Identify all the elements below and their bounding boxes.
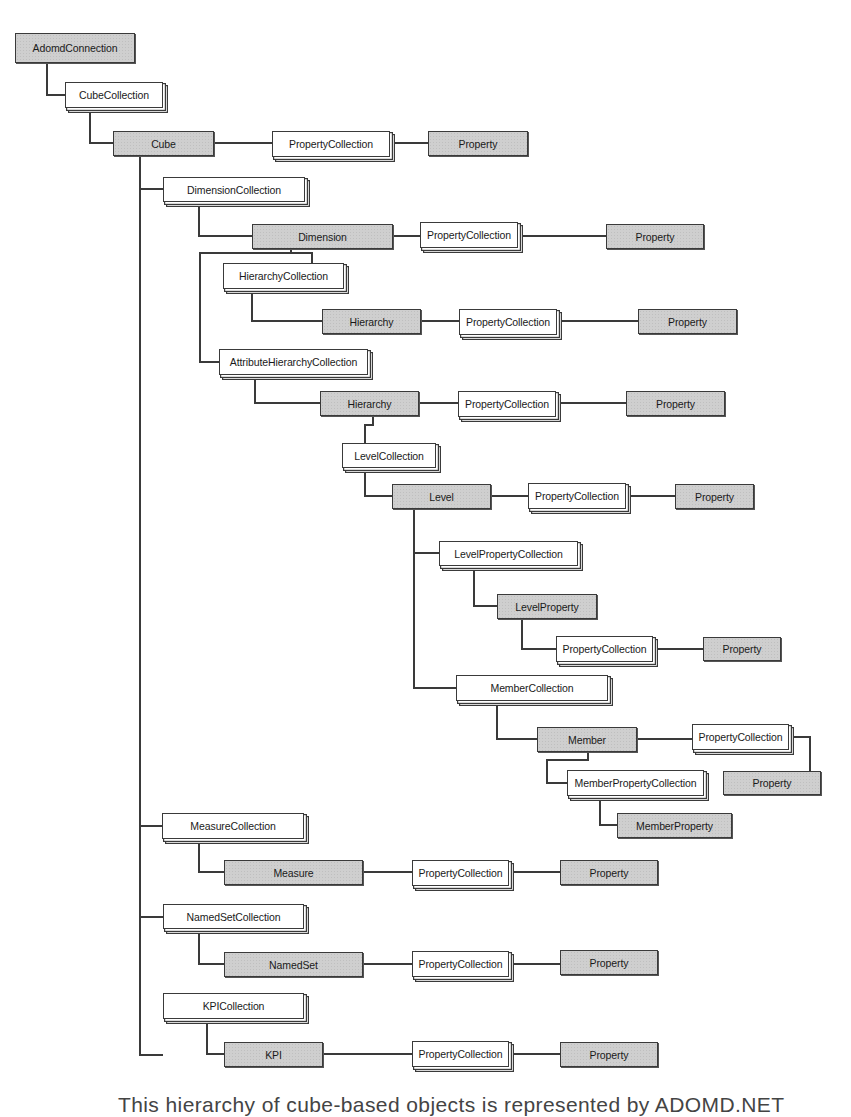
connector-hierarchy_collection-to-hierarchy_1 [252,289,322,321]
node-kpi-property-collection: PropertyCollection [412,1041,509,1067]
node-label: Property [590,867,629,879]
node-level-property-obj-property-collection: PropertyCollection [556,636,653,662]
connector-member_collection-to-member [497,701,537,739]
node-label: PropertyCollection [535,490,619,502]
node-label: Property [753,777,792,789]
node-label: PropertyCollection [419,958,503,970]
node-level: Level [392,484,491,509]
connector-level_property_obj-to-level_property_obj_property_collection [522,619,556,649]
figure-caption: This hierarchy of cube-based objects is … [118,1093,784,1117]
node-label: Cube [151,138,176,150]
node-level-property-obj-property: Property [703,637,781,661]
node-named-set-property-collection: PropertyCollection [412,951,509,977]
node-label: Measure [273,867,313,879]
node-adomd-connection: AdomdConnection [15,33,135,63]
node-label: Member [568,734,606,746]
connector-attribute_hierarchy_collection-to-hierarchy_2 [255,375,320,403]
node-level-property-collection: PropertyCollection [528,483,626,509]
node-label: MemberCollection [490,682,573,694]
node-dimension-collection: DimensionCollection [163,177,305,202]
node-measure-collection: MeasureCollection [162,813,304,839]
node-member-property-obj: MemberProperty [617,813,732,838]
node-label: AttributeHierarchyCollection [230,356,357,368]
node-label: PropertyCollection [419,867,503,879]
node-label: NamedSet [269,959,318,971]
node-label: PropertyCollection [289,138,373,150]
node-label: MeasureCollection [190,820,275,832]
node-dimension-property-collection: PropertyCollection [420,222,518,248]
connector-measure_collection-to-measure [199,839,224,872]
node-label: PropertyCollection [427,229,511,241]
node-level-collection: LevelCollection [342,443,436,468]
node-cube: Cube [113,131,214,156]
connector-cube_collection-to-cube [90,108,113,143]
node-label: KPI [265,1049,282,1061]
node-label: KPICollection [203,1000,265,1012]
node-dimension: Dimension [252,224,393,249]
node-label: Property [723,643,762,655]
node-hierarchy-collection: HierarchyCollection [223,263,344,289]
node-label: Level [429,491,454,503]
node-label: Property [636,231,675,243]
node-measure-property-collection: PropertyCollection [412,860,509,886]
connector-member_property_collection_2-to-member_property_obj [600,796,617,825]
node-level-property: Property [675,484,754,509]
node-label: PropertyCollection [699,731,783,743]
node-kpi: KPI [224,1042,323,1067]
node-member-collection: MemberCollection [456,675,608,701]
node-level-property-collection-2: LevelPropertyCollection [439,541,578,566]
node-named-set-collection: NamedSetCollection [163,904,304,929]
node-label: Property [695,491,734,503]
connector-adomd_connection-to-cube_collection [47,63,65,95]
node-kpi-property: Property [560,1042,658,1067]
node-label: PropertyCollection [419,1048,503,1060]
node-label: HierarchyCollection [239,270,328,282]
node-cube-collection: CubeCollection [65,82,163,108]
node-hierarchy-1: Hierarchy [322,309,421,334]
node-member: Member [537,727,637,752]
node-kpi-collection: KPICollection [163,993,304,1019]
connector-hierarchy_2-to-level_collection [365,416,373,443]
node-label: LevelPropertyCollection [454,548,563,560]
node-measure: Measure [224,860,363,885]
node-measure-property: Property [560,860,658,885]
node-hierarchy-1-property-collection: PropertyCollection [459,309,557,335]
node-label: Hierarchy [349,316,393,328]
node-hierarchy-2-property-collection: PropertyCollection [458,391,556,417]
node-label: PropertyCollection [563,643,647,655]
node-attribute-hierarchy-collection: AttributeHierarchyCollection [219,349,368,375]
node-label: Dimension [298,231,347,243]
node-label: MemberProperty [636,820,713,832]
node-dimension-property: Property [606,224,704,249]
node-hierarchy-2-property: Property [626,391,725,416]
node-label: Property [590,957,629,969]
node-hierarchy-2: Hierarchy [320,391,419,416]
node-label: LevelCollection [354,450,424,462]
node-label: PropertyCollection [465,398,549,410]
node-cube-property-collection: PropertyCollection [272,131,390,157]
node-level-property-obj: LevelProperty [497,594,597,619]
node-label: DimensionCollection [187,184,281,196]
node-member-property-collection: PropertyCollection [692,724,789,750]
node-label: CubeCollection [79,89,149,101]
connector-level-to-member_collection [414,509,456,688]
connector-dimension_collection-to-dimension [199,202,252,236]
node-label: Property [656,398,695,410]
node-label: AdomdConnection [33,42,118,54]
connector-member_property_collection-to-member_property [793,737,810,771]
node-label: Property [590,1049,629,1061]
node-cube-property: Property [428,131,528,156]
connector-cube-to-dimension_collection [140,156,163,1055]
node-hierarchy-1-property: Property [638,309,737,334]
node-member-property-collection-2: MemberPropertyCollection [567,770,704,796]
connector-named_set_collection-to-named_set [199,929,224,964]
node-label: LevelProperty [515,601,578,613]
node-label: MemberPropertyCollection [575,777,697,789]
node-named-set-property: Property [560,950,658,975]
node-label: Property [668,316,707,328]
connector-level_property_collection_2-to-level_property_obj [474,566,497,606]
node-label: NamedSetCollection [187,911,281,923]
connector-level_collection-to-level [365,468,392,496]
